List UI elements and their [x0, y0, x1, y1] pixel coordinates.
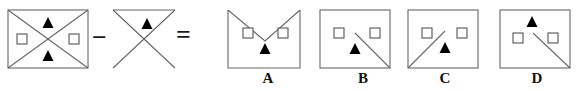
choice-a[interactable]	[220, 0, 310, 80]
subtrahend-diagonal-tail	[113, 39, 144, 68]
choice-b-square-left	[334, 28, 344, 38]
choice-label-d: D	[522, 70, 552, 87]
figure-subtrahend	[105, 0, 185, 80]
choice-c-square-left	[422, 28, 432, 38]
choice-a-outline	[228, 10, 300, 41]
choice-c[interactable]	[400, 0, 488, 80]
choice-b-triangle	[350, 43, 361, 54]
minuend-square-left	[17, 34, 27, 44]
choice-c-triangle	[440, 42, 451, 53]
choice-a-triangle	[260, 43, 271, 54]
choice-label-c: C	[430, 70, 460, 87]
choice-b-square-right	[370, 28, 380, 38]
minuend-triangle-bottom	[43, 50, 54, 61]
choice-b-rectangle	[320, 10, 390, 68]
minuend-square-right	[69, 34, 79, 44]
choice-c-rectangle	[408, 10, 478, 68]
choice-a-square-right	[278, 28, 288, 38]
choice-d-rectangle	[500, 10, 570, 68]
subtrahend-triangle	[142, 18, 153, 29]
choice-d-triangle	[527, 16, 538, 27]
figure-minuend	[0, 0, 100, 80]
choice-d-square-right	[548, 33, 558, 43]
choice-d[interactable]	[492, 0, 580, 80]
choice-label-a: A	[253, 70, 283, 87]
equals-operator: =	[176, 22, 191, 48]
choice-b[interactable]	[312, 0, 400, 80]
choice-c-square-right	[457, 28, 467, 38]
choice-label-b: B	[348, 70, 378, 87]
minuend-triangle-top	[43, 17, 54, 28]
choice-d-square-left	[513, 33, 523, 43]
choice-a-square-left	[243, 28, 253, 38]
visual-analogy-puzzle: − =	[0, 0, 580, 91]
